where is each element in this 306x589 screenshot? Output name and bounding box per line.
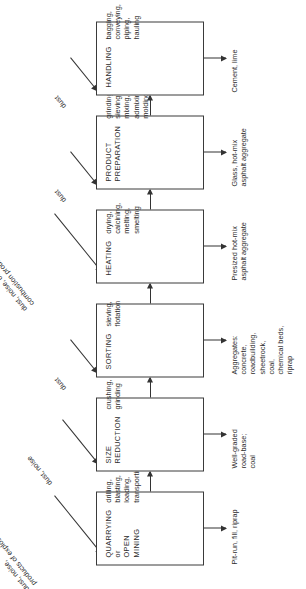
stage-row: QUARRYING or OPEN MINING drilling, blast…	[96, 21, 204, 565]
connector-arrow-3	[150, 283, 151, 303]
stage-box-size-reduction[interactable]: SIZE REDUCTION crushing, grinding	[96, 397, 204, 471]
emission-arrow-heating	[54, 213, 102, 271]
stage-box-sorting[interactable]: SORTING sieving, flotation	[96, 303, 204, 377]
emission-label-quarrying: dust, noise, products of explosion	[0, 488, 38, 589]
emission-label-sorting: dust	[30, 347, 69, 392]
product-label-sorting: Aggregates: concrete, roadbuilding, shee…	[230, 282, 294, 374]
stage-title-size-reduction: SIZE REDUCTION	[104, 416, 122, 463]
product-label-handling: Cement, lime	[230, 0, 239, 92]
emission-arrow-handling	[70, 57, 97, 90]
product-arrow-sorting	[204, 339, 226, 340]
diagram-canvas: dust, noise, products of explosion dust,…	[0, 0, 306, 589]
stage-operations-sorting: sieving, flotation	[104, 300, 122, 326]
connector-gap-5	[96, 95, 204, 115]
emission-label-heating: dust, noise, off-gases, combustion produ…	[0, 200, 36, 312]
emission-arrow-size-reduction	[62, 419, 98, 463]
connector-gap-2	[96, 377, 204, 397]
connector-arrow-1	[150, 471, 151, 491]
stage-title-handling: HANDLING	[104, 46, 113, 87]
connector-arrow-4	[150, 189, 151, 209]
connector-gap-3	[96, 283, 204, 303]
emission-label-size-reduction: dust, noise	[0, 419, 54, 487]
emission-arrow-sorting	[70, 339, 97, 372]
stage-title-heating: HEATING	[104, 240, 113, 275]
product-arrow-product-preparation	[204, 151, 226, 152]
product-label-heating: Presized hot-mix asphalt aggregate	[230, 170, 248, 280]
connector-gap-1	[96, 471, 204, 491]
stage-box-quarrying[interactable]: QUARRYING or OPEN MINING drilling, blast…	[96, 491, 204, 565]
emission-label-product-preparation: dust	[30, 159, 69, 204]
process-flow-diagram: dust, noise, products of explosion dust,…	[0, 0, 306, 589]
stage-box-handling[interactable]: HANDLING bagging, conveying, piping, hau…	[96, 21, 204, 95]
stage-operations-handling: bagging, conveying, piping, hauling	[104, 4, 141, 39]
stage-title-quarrying: QUARRYING or OPEN MINING	[104, 509, 141, 557]
emission-label-handling: dust	[30, 65, 69, 110]
stage-box-product-preparation[interactable]: PRODUCT PREPARATION grinding, sieving, m…	[96, 115, 204, 189]
product-arrow-heating	[204, 245, 226, 246]
product-label-size-reduction: Well-graded road-base; coal	[230, 376, 258, 468]
product-label-product-preparation: Glass, hot-mix asphalt aggregate	[230, 76, 248, 186]
connector-arrow-2	[150, 377, 151, 397]
connector-arrow-5	[150, 95, 151, 115]
stage-title-product-preparation: PRODUCT PREPARATION	[104, 125, 122, 181]
stage-box-heating[interactable]: HEATING drying, calcining, melting, smel…	[96, 209, 204, 283]
product-arrow-handling	[204, 57, 226, 58]
connector-gap-4	[96, 189, 204, 209]
stage-title-sorting: SORTING	[104, 333, 113, 369]
product-arrow-quarrying	[204, 527, 226, 528]
product-arrow-size-reduction	[204, 433, 226, 434]
emission-arrow-quarrying	[54, 495, 102, 553]
emission-arrow-product-preparation	[70, 151, 97, 184]
